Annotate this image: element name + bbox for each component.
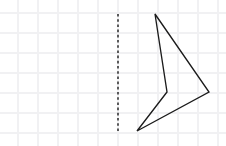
- polygon-right-vertex: [205, 88, 213, 96]
- polygon-bottom-vertex: [133, 127, 141, 135]
- diagram-canvas: [0, 0, 226, 146]
- polygon-top-vertex: [151, 10, 159, 18]
- polygon-reflex-vertex: [163, 88, 171, 96]
- reflection-diagram: [0, 0, 226, 146]
